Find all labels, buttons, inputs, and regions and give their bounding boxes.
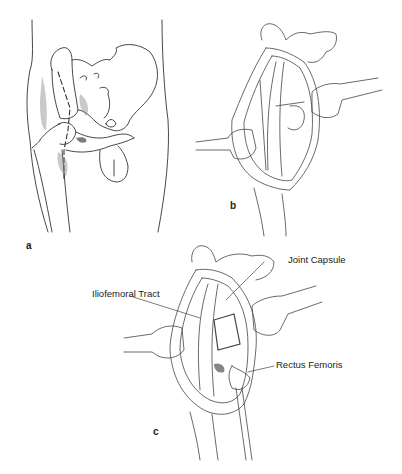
panel-a-label: a xyxy=(26,240,32,251)
panel-b-label: b xyxy=(230,200,236,211)
panel-c-drawing xyxy=(0,0,402,474)
label-joint-capsule: Joint Capsule xyxy=(288,254,346,265)
medical-illustration: a b c Joint Capsule Iliofemoral Tract Re… xyxy=(0,0,402,474)
panel-c-label: c xyxy=(153,426,159,437)
label-rectus-femoris: Rectus Femoris xyxy=(276,359,343,370)
label-iliofemoral-tract: Iliofemoral Tract xyxy=(92,288,160,299)
